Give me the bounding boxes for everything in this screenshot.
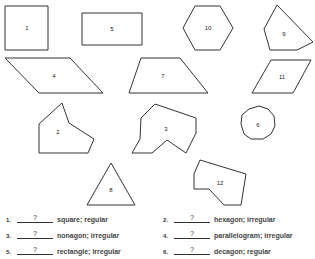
question-2: 2. ? hexagon; irregular (163, 214, 275, 223)
question-number: 5. (6, 249, 17, 255)
shape-label: 10 (205, 25, 212, 31)
triangle-polygon (87, 163, 135, 205)
shape-label: 12 (217, 180, 224, 186)
shape-11: 11 (252, 60, 311, 93)
shape-3: 3 (132, 104, 196, 153)
answer-blank[interactable]: ? (174, 214, 210, 223)
question-1: 1. ? square; regular (6, 214, 108, 223)
question-4: 4. ? parallelogram; irregular (163, 230, 293, 239)
answer-blank[interactable]: ? (17, 214, 53, 223)
shape-1: 1 (5, 6, 48, 50)
pentagon-polygon (264, 5, 313, 50)
question-number: 1. (6, 217, 17, 223)
question-number: 6. (163, 249, 174, 255)
question-number: 2. (163, 217, 174, 223)
shape-4: 4 (5, 58, 103, 93)
question-3: 3. ? nonagon; irregular (6, 230, 119, 239)
question-description: hexagon; irregular (214, 216, 275, 223)
shape-9: 9 (264, 5, 313, 50)
question-description: rectangle; irregular (57, 248, 121, 255)
question-6: 6. ? decagon; regular (163, 246, 271, 255)
trapezoid-polygon (129, 58, 208, 93)
question-description: parallelogram; irregular (214, 232, 293, 239)
answer-blank[interactable]: ? (174, 230, 210, 239)
answer-blank[interactable]: ? (174, 246, 210, 255)
answer-blank[interactable]: ? (17, 230, 53, 239)
shape-8: 8 (87, 163, 135, 205)
hexagon-irregular-polygon (39, 103, 94, 153)
question-number: 3. (6, 233, 17, 239)
question-5: 5. ? rectangle; irregular (6, 246, 121, 255)
shape-2: 2 (39, 103, 94, 153)
shape-6: 6 (241, 106, 275, 139)
question-number: 4. (163, 233, 174, 239)
shape-7: 7 (129, 58, 208, 93)
question-description: square; regular (57, 216, 108, 223)
shape-label: 11 (279, 74, 286, 80)
answer-blank[interactable]: ? (17, 246, 53, 255)
shape-5: 5 (82, 13, 142, 45)
shape-10: 10 (183, 6, 233, 50)
question-description: decagon; regular (214, 248, 271, 255)
question-description: nonagon; irregular (57, 232, 119, 239)
shape-12: 12 (194, 160, 246, 205)
